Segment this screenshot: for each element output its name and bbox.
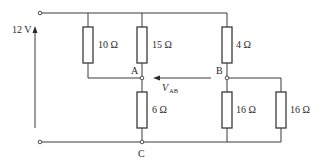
node-c-label: C: [138, 148, 145, 159]
bottom-terminal: [38, 140, 42, 144]
node-a: [140, 76, 144, 80]
resistor-4-ohm: [222, 13, 232, 76]
resistor-6-ohm: [137, 80, 147, 140]
node-a-label: A: [131, 65, 139, 76]
resistor-15-ohm: [137, 13, 147, 76]
source-voltage-label: 12 V: [12, 24, 32, 35]
vab-arrow: [153, 76, 211, 81]
circuit-diagram: 12 V 10 Ω 15 Ω A 6 Ω C 4 Ω B 1: [0, 0, 324, 165]
resistor-15-ohm-label: 15 Ω: [152, 39, 172, 50]
resistor-4-ohm-label: 4 Ω: [236, 39, 251, 50]
top-terminal: [38, 11, 42, 15]
vab-subscript: AB: [169, 87, 179, 94]
resistor-16-ohm-right: [276, 78, 286, 142]
node-b: [225, 76, 229, 80]
resistor-16-ohm-right-label: 16 Ω: [290, 104, 310, 115]
node-c: [140, 140, 144, 144]
node-b-label: B: [216, 65, 223, 76]
voltage-source-arrow: [33, 26, 38, 128]
resistor-16-ohm-left-label: 16 Ω: [236, 104, 256, 115]
resistor-6-ohm-label: 6 Ω: [152, 104, 167, 115]
resistor-16-ohm-left: [222, 80, 232, 142]
resistor-10-ohm-label: 10 Ω: [98, 39, 118, 50]
